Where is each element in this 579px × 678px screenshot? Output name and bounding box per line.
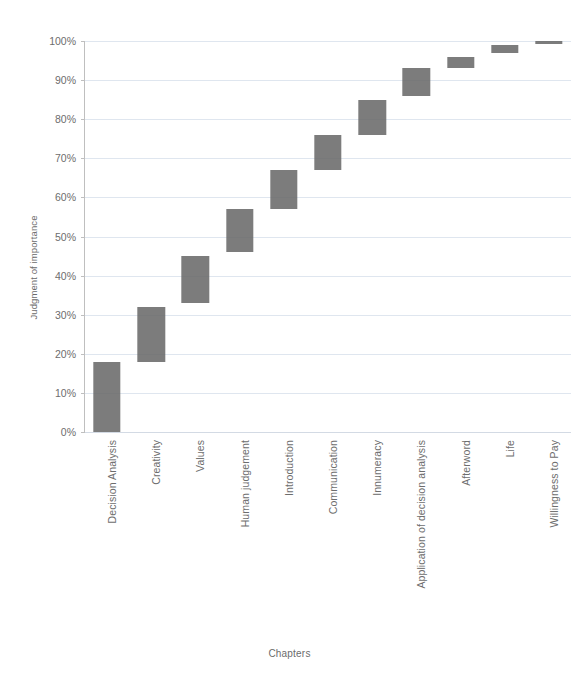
bar[interactable] — [491, 45, 518, 53]
bar[interactable] — [270, 170, 297, 209]
bar-slot — [483, 41, 527, 432]
y-axis-tick-label: 70% — [55, 153, 76, 164]
y-axis-tick-label: 100% — [49, 36, 76, 47]
x-axis-title: Chapters — [0, 648, 579, 659]
x-axis-tick: Values — [172, 432, 216, 622]
bar[interactable] — [138, 307, 165, 362]
bar-slot — [173, 41, 217, 432]
y-axis-tick-label: 80% — [55, 114, 76, 125]
x-axis-tick-label: Introduction — [283, 440, 295, 496]
y-axis-tick-label: 50% — [55, 231, 76, 242]
bar[interactable] — [535, 41, 562, 44]
y-axis-tick-label: 90% — [55, 75, 76, 86]
bar[interactable] — [447, 57, 474, 69]
x-axis-tick-label: Values — [194, 440, 206, 472]
y-axis-tick-label: 20% — [55, 349, 76, 360]
x-axis-tick: Introduction — [261, 432, 305, 622]
bar[interactable] — [403, 68, 430, 95]
x-axis-tick-label: Creativity — [150, 440, 162, 485]
x-axis-tick: Decision Analysis — [84, 432, 128, 622]
bar-slot — [306, 41, 350, 432]
x-axis-tick-label: Decision Analysis — [106, 440, 118, 523]
bar-slot — [394, 41, 438, 432]
x-axis-tick: Willingness to Pay — [526, 432, 570, 622]
bar-series — [85, 41, 571, 432]
bar-slot — [85, 41, 129, 432]
x-axis-tick-label: Innumeracy — [371, 440, 383, 496]
x-axis-tick-label: Willingness to Pay — [548, 440, 560, 528]
bar-slot — [218, 41, 262, 432]
y-axis-tick-label: 0% — [61, 427, 76, 438]
bar[interactable] — [358, 100, 385, 135]
chart-container: Judgment of importance 0%10%20%30%40%50%… — [0, 0, 579, 678]
y-axis-title: Judgment of importance — [28, 173, 39, 363]
x-axis-tick-label: Application of decision analysis — [415, 440, 427, 589]
bar[interactable] — [314, 135, 341, 170]
y-axis-tick-labels: 0%10%20%30%40%50%60%70%80%90%100% — [38, 41, 82, 432]
x-axis-tick-label: Life — [504, 440, 516, 457]
x-axis-tick: Innumeracy — [349, 432, 393, 622]
bar[interactable] — [182, 256, 209, 303]
x-axis-tick: Afterword — [437, 432, 481, 622]
x-axis-tick: Life — [482, 432, 526, 622]
x-axis-tick-label: Afterword — [460, 440, 472, 486]
bar-slot — [262, 41, 306, 432]
plot-area — [84, 41, 571, 432]
y-axis-tick-label: 10% — [55, 388, 76, 399]
y-axis-tick-label: 60% — [55, 192, 76, 203]
x-axis-tick: Application of decision analysis — [393, 432, 437, 622]
y-axis-tick-label: 40% — [55, 270, 76, 281]
bar[interactable] — [93, 362, 120, 432]
x-axis-tick: Communication — [305, 432, 349, 622]
bar-slot — [438, 41, 482, 432]
x-axis-tick-labels: Decision AnalysisCreativityValuesHuman j… — [84, 432, 570, 622]
bar-slot — [527, 41, 571, 432]
x-axis-tick-label: Human judgement — [239, 440, 251, 527]
x-axis-tick: Creativity — [128, 432, 172, 622]
bar-slot — [129, 41, 173, 432]
x-axis-tick-label: Communication — [327, 440, 339, 514]
bar[interactable] — [226, 209, 253, 252]
bar-slot — [350, 41, 394, 432]
y-axis-tick-label: 30% — [55, 309, 76, 320]
x-axis-tick: Human judgement — [217, 432, 261, 622]
